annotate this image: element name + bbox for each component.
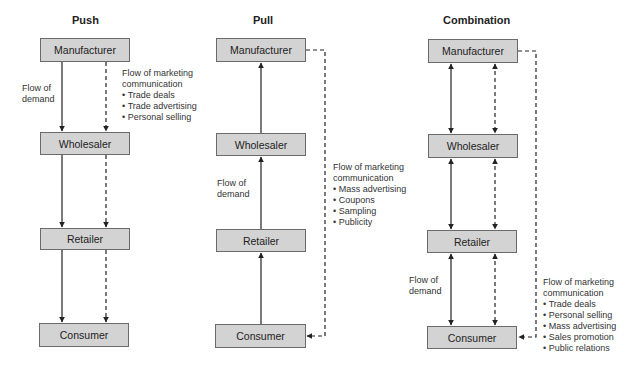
pull-box-manufacturer: Manufacturer <box>216 38 306 62</box>
combination-communication-list: Trade deals Personal selling Mass advert… <box>543 299 637 354</box>
combination-communication-heading: Flow of marketing communication <box>543 277 637 299</box>
list-item: Trade deals <box>543 299 637 310</box>
list-item: Sales promotion <box>543 332 637 343</box>
pull-demand-label: Flow of demand <box>217 178 257 200</box>
list-item: Trade advertising <box>122 101 212 112</box>
push-box-retailer: Retailer <box>40 228 130 250</box>
pull-communication-list: Mass advertising Coupons Sampling Public… <box>333 184 428 228</box>
list-item: Sampling <box>333 206 428 217</box>
combination-communication-label: Flow of marketing communication Trade de… <box>543 277 637 354</box>
push-communication-label: Flow of marketing communication Trade de… <box>122 68 212 123</box>
push-communication-heading: Flow of marketing communication <box>122 68 212 90</box>
push-box-wholesaler: Wholesaler <box>40 132 130 155</box>
push-demand-label: Flow of demand <box>22 83 62 105</box>
list-item: Personal selling <box>543 310 637 321</box>
push-title: Push <box>72 14 99 26</box>
combination-box-retailer: Retailer <box>427 230 517 253</box>
pull-comm-bypass-arrow <box>306 50 325 336</box>
pull-communication-heading: Flow of marketing communication <box>333 162 428 184</box>
list-item: Mass advertising <box>543 321 637 332</box>
list-item: Personal selling <box>122 112 212 123</box>
combination-box-manufacturer: Manufacturer <box>428 39 518 63</box>
list-item: Mass advertising <box>333 184 428 195</box>
combination-box-wholesaler: Wholesaler <box>428 134 518 158</box>
pull-box-wholesaler: Wholesaler <box>216 133 306 156</box>
combination-demand-label: Flow of demand <box>409 275 449 297</box>
combination-box-consumer: Consumer <box>427 326 517 349</box>
pull-box-consumer: Consumer <box>215 324 306 348</box>
list-item: Public relations <box>543 343 637 354</box>
pull-box-retailer: Retailer <box>216 229 306 252</box>
push-box-consumer: Consumer <box>39 323 129 347</box>
list-item: Trade deals <box>122 90 212 101</box>
push-communication-list: Trade deals Trade advertising Personal s… <box>122 90 212 123</box>
pull-communication-label: Flow of marketing communication Mass adv… <box>333 162 428 228</box>
push-box-manufacturer: Manufacturer <box>40 38 130 62</box>
combo-comm-bypass-arrow <box>518 51 536 337</box>
combination-title: Combination <box>443 14 510 26</box>
list-item: Coupons <box>333 195 428 206</box>
list-item: Publicity <box>333 217 428 228</box>
pull-title: Pull <box>253 14 273 26</box>
